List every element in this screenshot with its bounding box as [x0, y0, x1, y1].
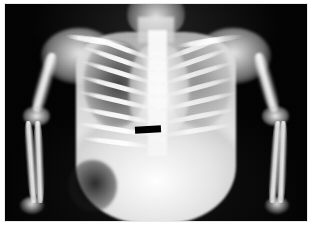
bowel-gas-shadow [68, 160, 116, 212]
page-root [0, 0, 312, 237]
radiograph-frame [4, 3, 308, 222]
spine-column [148, 30, 167, 156]
anonymization-bar [135, 125, 161, 134]
radiograph-plate [5, 4, 307, 221]
